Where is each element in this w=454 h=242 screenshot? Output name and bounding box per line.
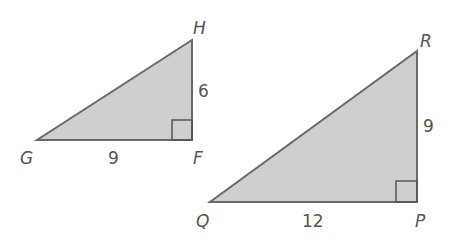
- side-label-qp: 12: [302, 211, 324, 231]
- triangle-gfh: H G F 9 6: [20, 18, 209, 168]
- vertex-label-r: R: [420, 31, 432, 51]
- side-label-fh: 6: [198, 81, 209, 101]
- vertex-label-f: F: [193, 148, 203, 168]
- triangle-gfh-shape: [37, 40, 192, 140]
- vertex-label-h: H: [193, 18, 206, 38]
- vertex-label-q: Q: [196, 211, 209, 231]
- vertex-label-g: G: [20, 148, 33, 168]
- side-label-gf: 9: [108, 148, 119, 168]
- side-label-pr: 9: [423, 116, 434, 136]
- vertex-label-p: P: [415, 211, 426, 231]
- similar-triangles-diagram: H G F 9 6 R Q P 12 9: [0, 0, 454, 242]
- triangle-qpr: R Q P 12 9: [196, 31, 434, 231]
- triangle-qpr-shape: [210, 51, 417, 202]
